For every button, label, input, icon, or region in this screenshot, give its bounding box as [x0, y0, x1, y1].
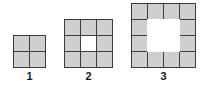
grid-cell: [148, 52, 163, 67]
grid-cell: [65, 20, 80, 35]
grid-cell: [164, 52, 179, 67]
grid-cell: [180, 4, 195, 19]
grid-cell: [65, 36, 80, 51]
figure-grid-3: [131, 3, 196, 68]
grid-cell: [132, 36, 147, 51]
figure-group-1: 1: [13, 35, 46, 82]
grid-cell: [132, 4, 147, 19]
grid-cell: [97, 52, 112, 67]
grid-cell: [132, 52, 147, 67]
grid-cell: [164, 4, 179, 19]
diagram-canvas: 1 2: [0, 0, 202, 89]
grid-cell: [97, 20, 112, 35]
figure-label-1: 1: [26, 71, 32, 82]
grid-cell: [30, 36, 45, 51]
figure-group-2: 2: [64, 19, 113, 82]
figure-grid-2: [64, 19, 113, 68]
grid-cell: [180, 36, 195, 51]
grid-cell: [81, 52, 96, 67]
grid-cell: [14, 52, 29, 67]
figure-label-3: 3: [160, 71, 166, 82]
grid-cell: [148, 4, 163, 19]
grid-cell: [132, 20, 147, 35]
grid-cell: [180, 52, 195, 67]
grid-cell-hole: [81, 36, 96, 51]
grid-cell: [65, 52, 80, 67]
figure-grid-1: [13, 35, 46, 68]
figure-label-2: 2: [85, 71, 91, 82]
grid-cell-hole: [147, 19, 180, 52]
grid-cell: [30, 52, 45, 67]
figure-group-3: 3: [131, 3, 196, 82]
grid-cell: [81, 20, 96, 35]
grid-cell: [97, 36, 112, 51]
grid-cell: [180, 20, 195, 35]
grid-cell: [14, 36, 29, 51]
